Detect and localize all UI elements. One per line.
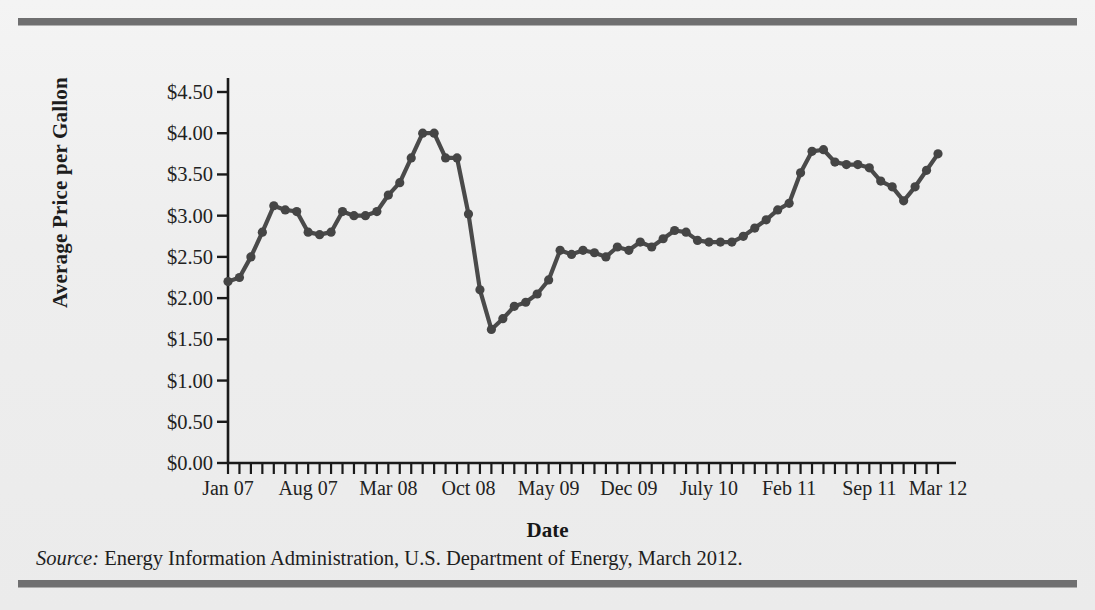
data-point-marker	[521, 298, 530, 307]
data-point-marker	[659, 234, 668, 243]
data-point-marker	[578, 246, 587, 255]
data-point-marker	[533, 289, 542, 298]
data-point-marker	[418, 129, 427, 138]
data-point-marker	[601, 252, 610, 261]
data-point-marker	[807, 147, 816, 156]
data-point-marker	[727, 237, 736, 246]
data-point-marker	[223, 277, 232, 286]
data-point-marker	[865, 163, 874, 172]
data-point-marker	[796, 168, 805, 177]
data-point-marker	[235, 273, 244, 282]
data-point-marker	[556, 246, 565, 255]
data-point-marker	[544, 275, 553, 284]
data-point-marker	[681, 228, 690, 237]
data-point-marker	[830, 157, 839, 166]
data-point-marker	[281, 205, 290, 214]
top-rule-divider	[18, 18, 1077, 25]
data-point-marker	[464, 209, 473, 218]
data-point-marker	[246, 252, 255, 261]
data-point-marker	[911, 182, 920, 191]
data-point-marker	[475, 285, 484, 294]
data-point-marker	[452, 153, 461, 162]
data-point-marker	[899, 196, 908, 205]
data-point-marker	[258, 228, 267, 237]
data-point-marker	[361, 211, 370, 220]
figure-page: Average Price per Gallon $4.50$4.00$3.50…	[0, 0, 1095, 610]
data-point-marker	[430, 129, 439, 138]
source-label: Source:	[36, 547, 99, 569]
data-point-marker	[395, 178, 404, 187]
data-point-marker	[933, 149, 942, 158]
data-point-marker	[326, 228, 335, 237]
data-point-marker	[773, 205, 782, 214]
data-point-marker	[315, 230, 324, 239]
data-point-marker	[750, 223, 759, 232]
data-point-marker	[842, 160, 851, 169]
data-point-marker	[647, 242, 656, 251]
data-point-marker	[590, 248, 599, 257]
data-point-marker	[636, 237, 645, 246]
figure-container: Average Price per Gallon $4.50$4.00$3.50…	[18, 28, 1077, 578]
x-axis-title: Date	[18, 518, 1077, 543]
data-point-marker	[853, 160, 862, 169]
data-point-marker	[716, 237, 725, 246]
line-chart: Average Price per Gallon $4.50$4.00$3.50…	[18, 28, 1077, 498]
data-point-marker	[292, 207, 301, 216]
data-point-marker	[876, 176, 885, 185]
data-point-marker	[441, 153, 450, 162]
data-point-marker	[613, 242, 622, 251]
data-point-marker	[567, 250, 576, 259]
data-point-marker	[338, 207, 347, 216]
data-point-marker	[384, 190, 393, 199]
data-point-marker	[739, 232, 748, 241]
data-point-marker	[372, 207, 381, 216]
data-point-marker	[624, 246, 633, 255]
data-point-marker	[269, 201, 278, 210]
data-point-marker	[922, 166, 931, 175]
data-point-marker	[349, 211, 358, 220]
data-point-marker	[498, 314, 507, 323]
data-point-marker	[693, 236, 702, 245]
data-point-marker	[785, 199, 794, 208]
data-point-marker	[762, 215, 771, 224]
source-note: Source: Energy Information Administratio…	[36, 547, 743, 570]
data-point-marker	[704, 237, 713, 246]
source-body: Energy Information Administration, U.S. …	[104, 547, 742, 569]
data-point-marker	[670, 226, 679, 235]
data-point-marker	[510, 302, 519, 311]
data-point-marker	[304, 228, 313, 237]
chart-plot-area	[18, 28, 1077, 498]
data-point-marker	[819, 145, 828, 154]
data-point-marker	[407, 153, 416, 162]
bottom-rule-divider	[18, 580, 1077, 587]
data-point-marker	[487, 325, 496, 334]
data-point-marker	[888, 182, 897, 191]
